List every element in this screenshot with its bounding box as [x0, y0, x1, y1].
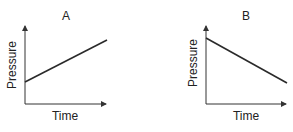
- graph-b-xlabel: Time: [233, 109, 260, 123]
- graph-a: A Pressure Time: [5, 9, 107, 123]
- graph-a-line: [25, 40, 107, 82]
- graph-b-ylabel: Pressure: [186, 39, 200, 87]
- chart-canvas: A Pressure Time B Pressure Time: [0, 0, 293, 132]
- graph-a-ylabel: Pressure: [5, 41, 19, 89]
- graph-b-title: B: [242, 9, 250, 23]
- graph-a-title: A: [62, 9, 70, 23]
- graph-b: B Pressure Time: [186, 9, 287, 123]
- graph-a-xlabel: Time: [52, 109, 79, 123]
- graph-b-line: [206, 38, 287, 83]
